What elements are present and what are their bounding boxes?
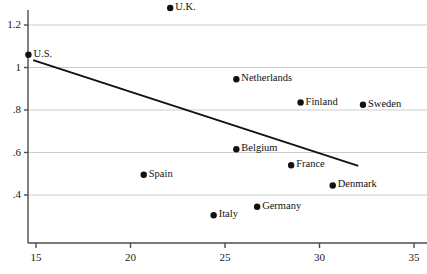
x-axis-tick-label: 30 — [300, 251, 340, 263]
data-point-label: Netherlands — [241, 72, 292, 83]
x-axis-tick-label: 20 — [111, 251, 151, 263]
scatter-plot-figure: .4.6.811.21520253035U.K.U.S.NetherlandsF… — [0, 0, 427, 274]
data-point-marker — [233, 76, 239, 82]
y-axis-tick-label: .8 — [0, 103, 21, 115]
data-point-label: Spain — [149, 168, 173, 179]
data-point-label: Italy — [219, 208, 238, 219]
data-point-marker — [254, 203, 260, 209]
data-point-label: Germany — [262, 200, 301, 211]
data-point-marker — [360, 101, 366, 107]
data-point-label: France — [296, 158, 325, 169]
data-point-label: Belgium — [241, 142, 277, 153]
data-point-marker — [25, 52, 31, 58]
x-axis-tick-label: 35 — [394, 251, 427, 263]
y-axis-tick-label: .4 — [0, 188, 21, 200]
data-point-marker — [167, 5, 173, 11]
trend-line — [33, 60, 358, 166]
plot-canvas — [0, 0, 427, 274]
data-point-marker — [141, 172, 147, 178]
data-point-label: Denmark — [338, 178, 377, 189]
y-axis-tick-label: 1 — [0, 61, 21, 73]
y-axis-tick-label: 1.2 — [0, 18, 21, 30]
data-point-label: U.K. — [175, 1, 195, 12]
data-point-label: Sweden — [368, 98, 401, 109]
x-axis-tick-label: 15 — [16, 251, 56, 263]
data-point-label: Finland — [306, 96, 338, 107]
y-axis-tick-label: .6 — [0, 146, 21, 158]
data-point-marker — [210, 212, 216, 218]
data-point-marker — [297, 99, 303, 105]
data-point-marker — [330, 182, 336, 188]
data-point-label: U.S. — [33, 48, 52, 59]
data-point-marker — [233, 146, 239, 152]
data-point-marker — [288, 162, 294, 168]
x-axis-tick-label: 25 — [205, 251, 245, 263]
